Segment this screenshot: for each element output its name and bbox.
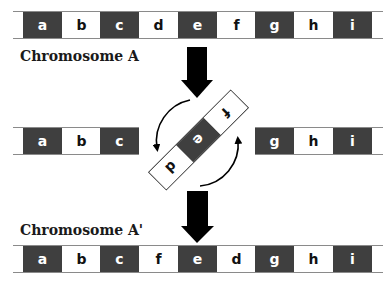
segment-d: d bbox=[217, 246, 256, 272]
segment-f: f bbox=[139, 246, 178, 272]
down-arrow-icon bbox=[181, 47, 213, 98]
segment-e: e bbox=[178, 246, 217, 272]
chromosome-a-prime-bottom-line bbox=[13, 272, 383, 273]
segment-h: h bbox=[294, 246, 333, 272]
segment-i: i bbox=[333, 246, 372, 272]
segment-c: c bbox=[100, 246, 139, 272]
chromosome-a-prime-label: Chromosome A' bbox=[20, 222, 143, 238]
segment-g: g bbox=[255, 246, 294, 272]
segment-b: b bbox=[62, 246, 101, 272]
segment-a: a bbox=[23, 246, 62, 272]
down-arrow-icon bbox=[181, 191, 214, 243]
